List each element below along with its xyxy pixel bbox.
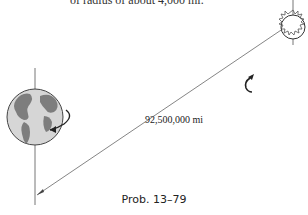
figure-caption: Prob. 13–79 <box>0 193 308 206</box>
distance-line <box>37 22 293 195</box>
sun-icon <box>279 10 305 39</box>
distance-label: 92,500,000 mi <box>145 114 203 125</box>
orbit-rotation-arrow <box>246 78 253 92</box>
diagram <box>0 0 308 215</box>
earth-icon <box>7 89 63 145</box>
